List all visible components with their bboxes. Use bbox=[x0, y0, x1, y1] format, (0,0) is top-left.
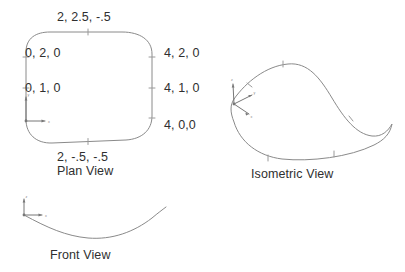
plan-view-title: Plan View bbox=[57, 164, 113, 178]
iso-axis-y-label: y bbox=[254, 91, 256, 95]
front-axis-x-label: x bbox=[45, 214, 47, 218]
iso-axis-z-arrowhead bbox=[232, 84, 235, 88]
isometric-view-title: Isometric View bbox=[251, 167, 333, 181]
plan-label-bottom: 2, -.5, -.5 bbox=[57, 150, 108, 164]
plan-label-left-lower: 0, 1, 0 bbox=[25, 81, 60, 95]
drawing-canvas: x y z y x bbox=[0, 0, 405, 272]
iso-axis-z-label: z bbox=[231, 78, 233, 82]
iso-axis-origin-dot bbox=[233, 103, 236, 106]
iso-axis-x-label: x bbox=[251, 115, 253, 119]
plan-label-left-upper: 0, 2, 0 bbox=[25, 46, 60, 60]
plan-axis-origin-dot bbox=[25, 120, 28, 123]
front-view-curve bbox=[24, 207, 166, 238]
plan-axis-x-arrowhead bbox=[42, 120, 46, 123]
plan-label-right-upper: 4, 2, 0 bbox=[164, 46, 199, 60]
plan-label-right-lower: 4, 0,0 bbox=[164, 118, 196, 132]
plan-label-right-middle: 4, 1, 0 bbox=[164, 81, 199, 95]
plan-view-axis-indicator: x y bbox=[25, 93, 50, 124]
plan-axis-x-label: x bbox=[48, 120, 50, 124]
isometric-view-outline bbox=[231, 64, 392, 160]
front-axis-origin-dot bbox=[23, 214, 26, 217]
technical-drawing-svg: x y z y x bbox=[0, 0, 405, 272]
front-view-title: Front View bbox=[50, 248, 111, 262]
front-axis-x-arrowhead bbox=[39, 214, 43, 217]
front-axis-z-label: z bbox=[26, 195, 28, 199]
plan-label-top: 2, 2.5, -.5 bbox=[57, 10, 111, 24]
iso-tick-right bbox=[349, 116, 353, 121]
front-view-axis-indicator: x z bbox=[23, 195, 47, 218]
iso-axis-x-line bbox=[234, 104, 249, 114]
front-view-group: x z bbox=[23, 195, 166, 238]
plan-axis-y-arrowhead bbox=[25, 97, 28, 101]
front-axis-z-arrowhead bbox=[23, 199, 26, 203]
isometric-view-group: z y x bbox=[231, 61, 392, 161]
iso-tick-upper-left bbox=[247, 83, 252, 87]
